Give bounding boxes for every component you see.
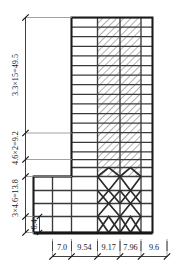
shear-wall-panel-left bbox=[98, 18, 121, 177]
shear-wall-panel-right bbox=[120, 18, 141, 177]
vdim-label-base: 6.4 bbox=[30, 219, 39, 229]
hdim-label-2: 9.54 bbox=[77, 243, 91, 252]
hdim-label-5: 9.6 bbox=[149, 243, 159, 252]
vdim-label-mid: 4.6×2=9.2 bbox=[11, 131, 20, 165]
elevation-drawing: 3.3×15=49.5 4.6×2=9.2 3×4.6=13.8 6.4 bbox=[0, 0, 184, 273]
hdim-label-3: 9.17 bbox=[102, 243, 116, 252]
hdim-label-1: 7.0 bbox=[57, 243, 67, 252]
vdim-label-lower: 3×4.6=13.8 bbox=[11, 179, 20, 217]
drawing-canvas: 3.3×15=49.5 4.6×2=9.2 3×4.6=13.8 6.4 bbox=[0, 0, 184, 273]
vdim-label-upper: 3.3×15=49.5 bbox=[11, 54, 20, 96]
hdim-label-4: 7.96 bbox=[123, 243, 137, 252]
shear-wall-hatch-group bbox=[98, 18, 142, 177]
